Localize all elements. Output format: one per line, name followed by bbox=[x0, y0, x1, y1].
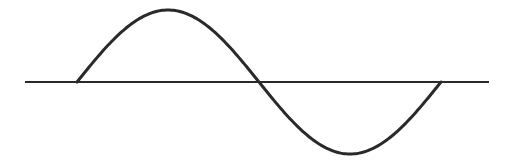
diagram-svg bbox=[0, 0, 514, 168]
sine-wave-diagram bbox=[0, 0, 514, 168]
